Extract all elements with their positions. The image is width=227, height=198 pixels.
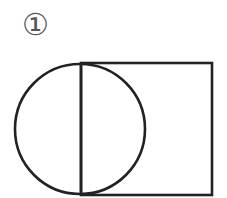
square-shape — [81, 63, 212, 195]
geometry-figure — [0, 0, 227, 198]
